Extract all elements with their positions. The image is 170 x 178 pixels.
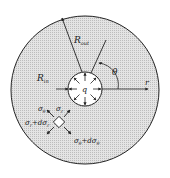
- pressure-label: q: [82, 85, 87, 94]
- theta-label: θ: [112, 67, 118, 77]
- sigma-r-plus-dsigma-label: σr+dσr: [25, 119, 50, 128]
- sigma-theta-plus-dsigma-label: σθ+dσθ: [74, 137, 100, 146]
- annulus-stress-diagram: Rout Rin θ r q σθ σr σr+dσr σθ+dσθ: [0, 0, 170, 178]
